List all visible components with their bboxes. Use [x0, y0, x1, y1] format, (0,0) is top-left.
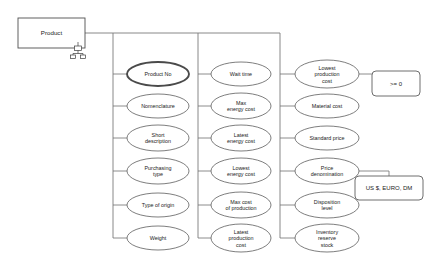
attribute-node[interactable]: Standard price — [295, 126, 359, 150]
diagram-canvas: Product NoNomenclatureShortdescriptionPu… — [0, 0, 435, 254]
icon-child-box-right — [81, 55, 86, 59]
domain-node[interactable]: US $, EURO, DM — [355, 176, 423, 200]
attribute-node[interactable]: Wait time — [211, 62, 271, 86]
attribute-node[interactable]: Purchasingtype — [127, 158, 189, 184]
domain-node[interactable]: >= 0 — [372, 71, 420, 96]
icon-connector — [73, 51, 83, 56]
attribute-label: Type of origin — [142, 202, 174, 208]
attribute-node[interactable]: Shortdescription — [127, 125, 189, 151]
attribute-node[interactable]: Material cost — [295, 94, 359, 118]
attribute-node[interactable]: Lowestenergy cost — [211, 158, 271, 184]
attribute-node[interactable]: Lowestproductioncost — [295, 60, 359, 88]
attribute-node[interactable]: Max costof production — [211, 192, 271, 218]
attribute-node[interactable]: Nomenclature — [127, 94, 189, 118]
attribute-node[interactable]: Maxenergy cost — [211, 93, 271, 119]
node-layer: Product NoNomenclatureShortdescriptionPu… — [18, 18, 423, 252]
attribute-label: Product No — [145, 71, 172, 77]
attribute-node[interactable]: Latestenergy cost — [211, 125, 271, 151]
domain-connector — [359, 171, 389, 176]
attribute-node[interactable]: Product No — [127, 62, 189, 86]
attribute-label: Nomenclature — [141, 103, 175, 109]
entity-label: Product — [41, 29, 63, 36]
domain-label: US $, EURO, DM — [366, 185, 413, 191]
attribute-label: Standard price — [309, 135, 344, 141]
entity-attribute-diagram: Product NoNomenclatureShortdescriptionPu… — [0, 0, 435, 254]
attribute-node[interactable]: Type of origin — [127, 193, 189, 217]
icon-child-box-left — [71, 55, 76, 59]
attribute-label: Weight — [150, 235, 167, 241]
attribute-node[interactable]: Weight — [127, 226, 189, 250]
icon-top-box — [75, 46, 82, 51]
attribute-node[interactable]: Inventoryreservestock — [295, 224, 359, 252]
attribute-node[interactable]: Dispositionlevel — [295, 192, 359, 218]
attribute-label: Material cost — [312, 103, 343, 109]
entity-node[interactable]: Product — [18, 18, 85, 48]
attribute-label: Wait time — [230, 71, 252, 77]
attribute-node[interactable]: Latestproductioncost — [211, 224, 271, 252]
domain-label: >= 0 — [390, 81, 403, 87]
attribute-node[interactable]: Pricedenomination — [295, 158, 359, 184]
